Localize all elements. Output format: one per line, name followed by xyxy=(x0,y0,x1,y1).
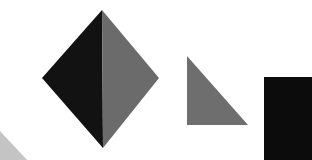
diamond-right-half-gray xyxy=(102,10,159,148)
black-rectangle xyxy=(264,77,312,160)
shapes-canvas xyxy=(0,0,312,160)
shapes-svg xyxy=(0,0,312,160)
gray-right-triangle xyxy=(187,56,248,125)
diamond-left-half-black xyxy=(42,10,103,148)
corner-light-gray-triangle xyxy=(0,131,27,160)
